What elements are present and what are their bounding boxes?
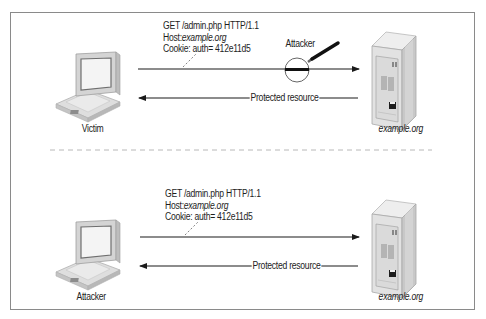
- top-response-label: Protected resource: [250, 92, 320, 103]
- top-request-callout: [183, 53, 197, 67]
- attacker-laptop-icon: [56, 220, 120, 290]
- host-header: Host:example.org: [165, 200, 261, 212]
- bottom-server-icon: [372, 200, 416, 298]
- host-header: Host:example.org: [163, 32, 259, 44]
- request-line: GET /admin.php HTTP/1.1: [163, 20, 259, 32]
- request-line: GET /admin.php HTTP/1.1: [165, 188, 261, 200]
- top-http-request: GET /admin.php HTTP/1.1 Host:example.org…: [163, 20, 259, 55]
- victim-label: Victim: [82, 123, 104, 134]
- victim-laptop-icon: [56, 52, 120, 122]
- top-server-icon: [372, 32, 416, 130]
- top-server-label: example.org: [379, 123, 423, 134]
- attacker-label: Attacker: [76, 291, 105, 302]
- cookie-header: Cookie: auth= 412e11d5: [165, 211, 261, 223]
- interceptor-label: Attacker: [285, 38, 314, 49]
- cookie-header: Cookie: auth= 412e11d5: [163, 43, 259, 55]
- bottom-server-label: example.org: [379, 291, 423, 302]
- bottom-response-label: Protected resource: [252, 260, 322, 271]
- bottom-request-callout: [185, 221, 199, 235]
- bottom-http-request: GET /admin.php HTTP/1.1 Host:example.org…: [165, 188, 261, 223]
